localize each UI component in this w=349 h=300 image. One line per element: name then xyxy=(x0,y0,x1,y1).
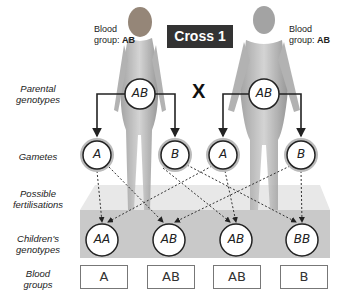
mother-genotype: AB xyxy=(125,86,155,100)
mother-label-line1: Blood xyxy=(94,24,135,35)
row-label-line: Blood xyxy=(0,268,76,279)
cross-title: Cross 1 xyxy=(167,25,233,48)
row-label-line: Children's xyxy=(0,233,76,244)
row-label-line: groups xyxy=(0,279,76,290)
gamete-1: A xyxy=(87,147,107,161)
child-genotype-4: BB xyxy=(286,232,318,246)
child-blood-group-2: AB xyxy=(147,265,195,289)
row-label-line: genotypes xyxy=(0,244,76,255)
gamete-2: B xyxy=(165,147,185,161)
cross-symbol: X xyxy=(192,80,205,103)
child-genotype-3: AB xyxy=(220,232,252,246)
mother-label-text: group: xyxy=(94,35,122,45)
gamete-4: B xyxy=(291,147,311,161)
child-genotype-1: AA xyxy=(86,232,118,246)
row-label-gametes: Gametes xyxy=(0,151,76,162)
father-genotype: AB xyxy=(249,86,279,100)
row-label-line: fertilisations xyxy=(0,199,76,210)
child-blood-group-3: AB xyxy=(213,265,261,289)
father-label-text: group: xyxy=(289,35,317,45)
child-blood-group-1: A xyxy=(80,265,128,289)
row-label-children-genotypes: Children's genotypes xyxy=(0,233,76,255)
row-label-fertilisations: Possible fertilisations xyxy=(0,188,76,210)
row-label-line: genotypes xyxy=(0,94,76,105)
gamete-3: A xyxy=(213,147,233,161)
row-label-blood-groups: Blood groups xyxy=(0,268,76,290)
father-label-line2: group: AB xyxy=(289,35,330,46)
row-label-parental-genotypes: Parental genotypes xyxy=(0,83,76,105)
row-label-line: Parental xyxy=(0,83,76,94)
row-label-line: Possible xyxy=(0,188,76,199)
row-label-line: Gametes xyxy=(0,151,76,162)
child-blood-group-4: B xyxy=(280,265,328,289)
father-label-line1: Blood xyxy=(289,24,330,35)
mother-blood-group-label: Blood group: AB xyxy=(94,24,135,46)
mother-label-line2: group: AB xyxy=(94,35,135,46)
father-blood-group-value: AB xyxy=(317,35,330,45)
gamete-circles xyxy=(80,138,318,172)
mother-blood-group-value: AB xyxy=(122,35,135,45)
child-genotype-2: AB xyxy=(153,232,185,246)
platform-top xyxy=(80,185,330,210)
father-blood-group-label: Blood group: AB xyxy=(289,24,330,46)
